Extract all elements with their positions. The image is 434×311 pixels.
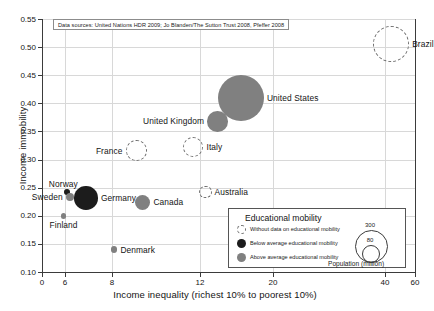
x-tick-mark: [385, 273, 386, 277]
y-axis-title: Income immobility: [17, 66, 28, 226]
legend-label-nodata: Without data on educational mobility: [250, 226, 340, 232]
legend-swatch-below: [237, 239, 246, 248]
gridline-horizontal: [42, 160, 415, 161]
plot-right-border: [415, 19, 416, 272]
chart-legend: Educational mobility Without data on edu…: [228, 208, 406, 268]
x-axis-title: Income inequality (richest 10% to poores…: [0, 289, 430, 300]
y-tick-mark: [38, 103, 42, 104]
y-tick-mark: [38, 47, 42, 48]
point-label-united-states: United States: [267, 93, 319, 103]
x-tick-label: 20: [258, 278, 288, 287]
bubble-brazil[interactable]: [373, 26, 409, 62]
y-tick-mark: [38, 131, 42, 132]
y-tick-label: 0.55: [6, 15, 36, 24]
y-tick-mark: [38, 19, 42, 20]
bubble-united-kingdom[interactable]: [207, 111, 227, 131]
legend-swatch-above: [237, 253, 246, 262]
legend-label-below: Below average educational mobility: [250, 240, 338, 246]
x-tick-label: 8: [97, 278, 127, 287]
gridline-horizontal: [42, 47, 415, 48]
bubble-canada[interactable]: [135, 195, 150, 210]
x-tick-mark: [112, 273, 113, 277]
bubble-germany[interactable]: [74, 186, 98, 210]
point-label-australia: Australia: [215, 187, 248, 197]
bubble-denmark[interactable]: [111, 246, 117, 252]
legend-swatch-nodata: [237, 225, 246, 234]
gridline-horizontal: [42, 131, 415, 132]
point-label-canada: Canada: [153, 197, 183, 207]
point-label-brazil: Brazil: [412, 39, 434, 49]
point-label-france: France: [96, 146, 123, 156]
x-tick-label: 6: [50, 278, 80, 287]
x-tick-label: 60: [400, 278, 430, 287]
population-value-80: 80: [356, 237, 384, 243]
x-tick-label: 40: [370, 278, 400, 287]
x-tick-mark: [273, 273, 274, 277]
y-axis-line: [42, 19, 43, 272]
x-tick-mark: [200, 273, 201, 277]
y-tick-label: 0.15: [6, 239, 36, 248]
gridline-vertical: [65, 19, 66, 272]
y-tick-label: 0.10: [6, 268, 36, 277]
y-tick-label: 0.50: [6, 43, 36, 52]
legend-title: Educational mobility: [245, 213, 321, 223]
bubble-finland[interactable]: [61, 213, 67, 219]
gridline-horizontal: [42, 75, 415, 76]
x-tick-mark: [42, 273, 43, 277]
x-axis-line: [42, 272, 416, 273]
x-tick-mark: [415, 273, 416, 277]
x-tick-label: 12: [185, 278, 215, 287]
point-label-united-kingdom: United Kingdom: [143, 116, 204, 126]
bubble-france[interactable]: [126, 140, 147, 161]
point-label-denmark: Denmark: [120, 245, 155, 255]
population-circle-80: [362, 245, 380, 263]
point-label-sweden: Sweden: [32, 192, 63, 202]
bubble-australia[interactable]: [199, 186, 211, 198]
source-note: Data sources: United Nations HDR 2009; J…: [53, 19, 289, 30]
y-tick-mark: [38, 216, 42, 217]
y-tick-mark: [38, 188, 42, 189]
population-value-300: 300: [356, 222, 384, 228]
legend-label-above: Above average educational mobility: [250, 254, 338, 260]
point-label-germany: Germany: [101, 193, 136, 203]
y-tick-mark: [38, 160, 42, 161]
point-label-italy: Italy: [206, 142, 222, 152]
point-label-finland: Finland: [49, 220, 77, 230]
x-tick-mark: [65, 273, 66, 277]
y-tick-mark: [38, 244, 42, 245]
y-tick-mark: [38, 75, 42, 76]
point-label-norway: Norway: [49, 179, 78, 189]
bubble-sweden[interactable]: [66, 193, 74, 201]
